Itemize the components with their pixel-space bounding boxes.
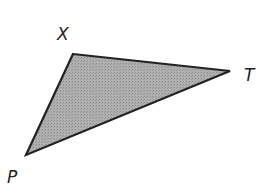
triangle-diagram: X T P: [0, 0, 263, 192]
triangle-xtp: [26, 54, 230, 155]
vertex-label-p: P: [7, 167, 18, 187]
vertex-label-x: X: [56, 24, 69, 44]
vertex-label-t: T: [244, 65, 256, 85]
